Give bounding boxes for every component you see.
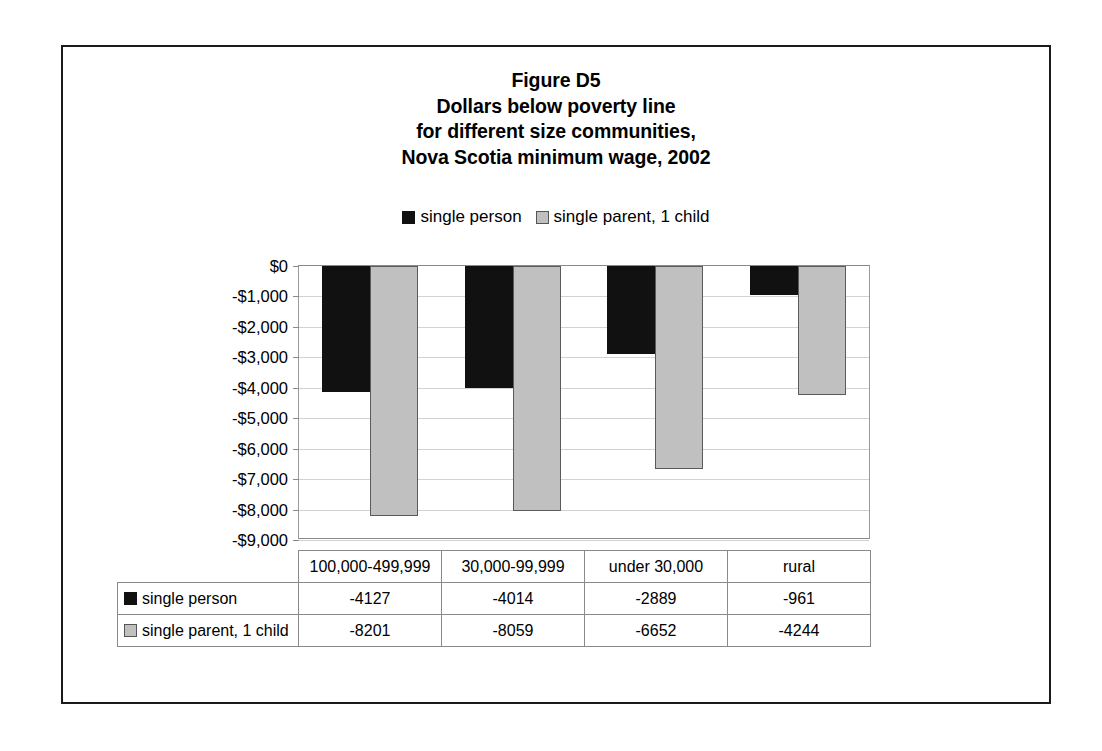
y-axis-tick-label: -$4,000	[232, 378, 288, 397]
table-row-label: single parent, 1 child	[118, 615, 299, 647]
bar-pair	[465, 266, 561, 538]
bar-group	[442, 266, 585, 538]
table-column-header: 100,000-499,999	[299, 551, 442, 583]
y-axis-tick	[293, 540, 299, 541]
y-axis-tick-label: -$9,000	[232, 531, 288, 550]
title-line-1: Figure D5	[63, 68, 1049, 94]
title-line-2: Dollars below poverty line	[63, 94, 1049, 120]
bar-single-parent	[513, 266, 561, 511]
light-square-swatch-icon	[536, 211, 549, 224]
table-cell-value: -4244	[728, 615, 871, 647]
chart-plot-area: $0-$1,000-$2,000-$3,000-$4,000-$5,000-$6…	[298, 265, 870, 539]
table-cell-value: -4014	[442, 583, 585, 615]
table-row-label-text: single parent, 1 child	[142, 622, 289, 640]
table-cell-value: -961	[728, 583, 871, 615]
y-axis-tick-label: -$7,000	[232, 470, 288, 489]
figure-title: Figure D5 Dollars below poverty line for…	[63, 68, 1049, 170]
title-line-3: for different size communities,	[63, 119, 1049, 145]
y-axis-tick-label: -$1,000	[232, 287, 288, 306]
bar-group	[727, 266, 870, 538]
table-cell-value: -6652	[585, 615, 728, 647]
legend-label-single-person: single person	[420, 207, 521, 227]
y-axis-tick-label: -$6,000	[232, 439, 288, 458]
legend-label-single-parent: single parent, 1 child	[554, 207, 710, 227]
y-axis-tick-label: -$8,000	[232, 500, 288, 519]
gridline	[299, 540, 869, 541]
bar-single-person	[322, 266, 370, 392]
table-cell-value: -8059	[442, 615, 585, 647]
y-axis-tick-label: -$5,000	[232, 409, 288, 428]
table-header-row: 100,000-499,99930,000-99,999under 30,000…	[118, 551, 871, 583]
table-row-label-text: single person	[142, 590, 237, 608]
legend-entry-single-parent: single parent, 1 child	[536, 207, 710, 227]
table-row: single person-4127-4014-2889-961	[118, 583, 871, 615]
table-row-label: single person	[118, 583, 299, 615]
bar-pair	[322, 266, 418, 538]
table-cell-value: -2889	[585, 583, 728, 615]
chart-plot-wrapper: $0-$1,000-$2,000-$3,000-$4,000-$5,000-$6…	[298, 265, 870, 539]
y-axis-tick-label: -$2,000	[232, 317, 288, 336]
y-axis-tick-label: -$3,000	[232, 348, 288, 367]
figure-frame: Figure D5 Dollars below poverty line for…	[61, 45, 1051, 704]
bar-single-person	[607, 266, 655, 354]
legend-entry-single-person: single person	[402, 207, 521, 227]
table-corner-cell	[118, 551, 299, 583]
figure-page: Figure D5 Dollars below poverty line for…	[0, 0, 1102, 751]
chart-data-table-wrapper: 100,000-499,99930,000-99,999under 30,000…	[117, 550, 870, 647]
light-square-swatch-icon	[124, 624, 137, 637]
y-axis-tick-label: $0	[270, 257, 288, 276]
bar-pair	[750, 266, 846, 538]
bar-single-parent	[370, 266, 418, 516]
bar-group	[584, 266, 727, 538]
dark-square-swatch-icon	[402, 211, 415, 224]
bar-single-parent	[798, 266, 846, 395]
bar-single-person	[465, 266, 513, 388]
title-line-4: Nova Scotia minimum wage, 2002	[63, 145, 1049, 171]
table-cell-value: -8201	[299, 615, 442, 647]
chart-legend: single person single parent, 1 child	[63, 207, 1049, 227]
dark-square-swatch-icon	[124, 592, 137, 605]
table-column-header: 30,000-99,999	[442, 551, 585, 583]
bar-single-parent	[655, 266, 703, 469]
bar-group	[299, 266, 442, 538]
bar-pair	[607, 266, 703, 538]
table-column-header: under 30,000	[585, 551, 728, 583]
bar-single-person	[750, 266, 798, 295]
chart-data-table: 100,000-499,99930,000-99,999under 30,000…	[117, 550, 871, 647]
table-column-header: rural	[728, 551, 871, 583]
table-row: single parent, 1 child-8201-8059-6652-42…	[118, 615, 871, 647]
table-cell-value: -4127	[299, 583, 442, 615]
